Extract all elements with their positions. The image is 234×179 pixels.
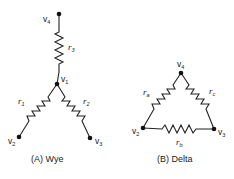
delta-label-v3: v3 xyxy=(218,127,225,138)
resistor-ra xyxy=(143,73,181,128)
delta-node-v4 xyxy=(179,71,184,76)
wye-caption: (A) Wye xyxy=(31,154,63,164)
wye-network: v4 v1 v2 v3 r3 r1 r2 (A) Wye xyxy=(8,12,102,164)
delta-label-v4: v4 xyxy=(177,59,184,70)
delta-label-rb: rb xyxy=(176,137,183,148)
resistor-r2 xyxy=(57,84,90,138)
wye-label-v3: v3 xyxy=(95,136,102,147)
delta-network: v4 v2 v3 ra rc rb (B) Delta xyxy=(132,59,225,164)
delta-label-rc: rc xyxy=(209,86,216,97)
delta-caption: (B) Delta xyxy=(157,154,193,164)
delta-label-ra: ra xyxy=(143,87,150,98)
resistor-rc xyxy=(181,73,214,129)
wye-node-v1 xyxy=(55,82,60,87)
wye-node-v3 xyxy=(88,136,93,141)
wye-node-v4 xyxy=(57,12,62,17)
delta-node-v3 xyxy=(212,127,217,132)
wye-delta-diagram: v4 v1 v2 v3 r3 r1 r2 (A) Wye v4 v2 v3 ra… xyxy=(0,0,234,179)
delta-node-v2 xyxy=(141,126,146,131)
wye-label-v4: v4 xyxy=(43,14,50,25)
resistor-rb xyxy=(143,125,214,133)
wye-label-r2: r2 xyxy=(83,96,90,107)
wye-label-v1: v1 xyxy=(61,74,68,85)
delta-label-v2: v2 xyxy=(132,126,139,137)
wye-label-r3: r3 xyxy=(68,42,76,53)
wye-label-v2: v2 xyxy=(8,136,15,147)
wye-label-r1: r1 xyxy=(18,96,25,107)
resistor-r1 xyxy=(19,84,57,137)
wye-node-v2 xyxy=(17,135,22,140)
